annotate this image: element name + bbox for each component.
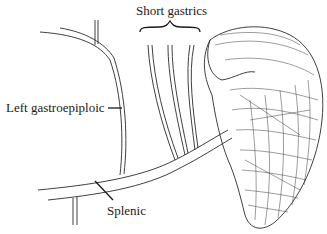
short-gastric-arteries [148,45,198,160]
splenic-leader [95,181,113,200]
diagram-drawing [0,0,327,234]
short-gastrics-brace [140,21,200,32]
left-gastroepiploic-artery [40,20,126,175]
label-short-gastrics: Short gastrics [136,4,207,17]
spleen-organ [204,27,322,228]
label-left-gastroepiploic: Left gastroepiploic [6,101,105,114]
label-splenic: Splenic [107,204,146,217]
spleen-vessel-diagram: Short gastrics Left gastroepiploic Splen… [0,0,327,234]
